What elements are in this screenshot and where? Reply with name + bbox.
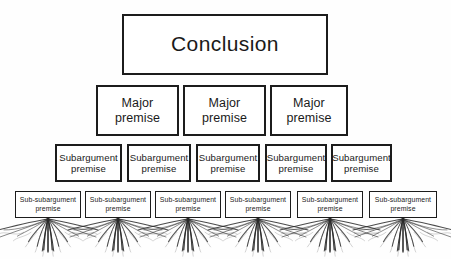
node-label: Conclusion bbox=[169, 32, 281, 57]
argument-pyramid-diagram: ConclusionMajor premiseMajor premiseMajo… bbox=[0, 0, 451, 259]
node-label: Subargument premise bbox=[128, 152, 191, 175]
node-sub-subargument-premise-3: Sub-subargument premise bbox=[155, 191, 221, 218]
node-label: Subargument premise bbox=[265, 152, 328, 175]
node-sub-subargument-premise-1: Sub-subargument premise bbox=[15, 191, 81, 218]
node-subargument-premise-3: Subargument premise bbox=[196, 144, 260, 182]
node-sub-subargument-premise-4: Sub-subargument premise bbox=[225, 191, 291, 218]
node-label: Subargument premise bbox=[330, 152, 393, 175]
node-label: Sub-subargument premise bbox=[300, 196, 360, 214]
node-label: Sub-subargument premise bbox=[373, 196, 433, 214]
node-sub-subargument-premise-5: Sub-subargument premise bbox=[297, 191, 363, 218]
node-label: Sub-subargument premise bbox=[18, 196, 78, 214]
node-label: Sub-subargument premise bbox=[88, 196, 148, 214]
node-major-premise-3: Major premise bbox=[270, 85, 348, 136]
node-label: Sub-subargument premise bbox=[158, 196, 218, 214]
node-sub-subargument-premise-2: Sub-subargument premise bbox=[85, 191, 151, 218]
node-label: Sub-subargument premise bbox=[228, 196, 288, 214]
node-subargument-premise-1: Subargument premise bbox=[55, 144, 122, 182]
node-label: Major premise bbox=[284, 96, 333, 126]
node-major-premise-1: Major premise bbox=[96, 85, 179, 136]
node-label: Subargument premise bbox=[57, 152, 120, 175]
node-subargument-premise-4: Subargument premise bbox=[265, 144, 327, 182]
node-conclusion-1: Conclusion bbox=[122, 14, 328, 75]
node-sub-subargument-premise-6: Sub-subargument premise bbox=[369, 191, 437, 218]
node-label: Major premise bbox=[113, 96, 162, 126]
node-label: Subargument premise bbox=[197, 152, 260, 175]
node-major-premise-2: Major premise bbox=[183, 85, 266, 136]
node-subargument-premise-2: Subargument premise bbox=[127, 144, 191, 182]
node-label: Major premise bbox=[200, 96, 249, 126]
node-subargument-premise-5: Subargument premise bbox=[331, 144, 392, 182]
